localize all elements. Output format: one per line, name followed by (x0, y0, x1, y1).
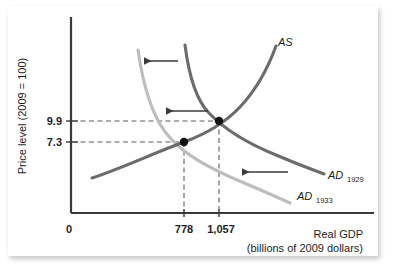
curve-as (92, 46, 276, 178)
equilibrium-point-1929 (215, 117, 223, 125)
shift-arrows (145, 61, 288, 172)
y-tick-label-9-9: 9.9 (47, 115, 62, 127)
x-axis-label-units: (billions of 2009 dollars) (247, 242, 363, 254)
curve-label-as: AS (277, 36, 293, 48)
y-tick-label-7-3: 7.3 (47, 136, 62, 148)
y-axis-label: Price level (2009 = 100) (16, 58, 28, 174)
guide-lines (72, 121, 219, 212)
x-axis-label: Real GDP (313, 228, 363, 240)
curve-label-ad-1929: AD (327, 169, 343, 181)
x-tick-label-1057: 1,057 (207, 223, 235, 235)
equilibrium-point-1933 (180, 138, 188, 146)
origin-label: 0 (66, 223, 72, 235)
x-tick-label-778: 778 (175, 223, 193, 235)
curve-label-ad-1929-subscript: 1929 (347, 175, 364, 184)
curve-label-ad-1933-subscript: 1933 (316, 196, 333, 205)
curve-label-ad-1933-group: AD 1933 (296, 190, 333, 205)
aggregate-demand-supply-chart: AS AD 1929 AD 1933 9.9 7.3 778 1,057 0 P… (0, 0, 397, 272)
curve-label-ad-1929-group: AD 1929 (327, 169, 364, 184)
axes (71, 17, 374, 213)
curve-label-ad-1933: AD (296, 190, 312, 202)
figure-root: AS AD 1929 AD 1933 9.9 7.3 778 1,057 0 P… (0, 0, 397, 272)
curve-ad-1929 (185, 45, 324, 174)
